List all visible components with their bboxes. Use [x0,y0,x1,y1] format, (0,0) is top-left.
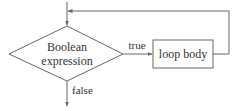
loop-body-label: loop body [159,47,207,61]
false-label: false [72,84,93,96]
decision-label-line2: expression [41,54,92,68]
flowchart: Boolean expression true loop body false [0,0,241,111]
decision-label-line1: Boolean [47,40,87,54]
true-label: true [128,39,145,51]
